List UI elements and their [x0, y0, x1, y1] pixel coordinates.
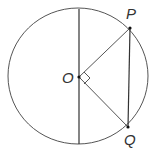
radius-op [79, 28, 130, 77]
geometry-diagram: O P Q [0, 0, 156, 148]
chord-pq [128, 28, 130, 127]
label-q: Q [124, 131, 136, 148]
radius-oq [79, 77, 128, 127]
label-o: O [62, 69, 74, 86]
right-angle-marker [84, 72, 90, 84]
label-p: P [126, 5, 136, 22]
point-q [126, 125, 129, 128]
point-p [128, 26, 131, 29]
point-o [77, 75, 80, 78]
